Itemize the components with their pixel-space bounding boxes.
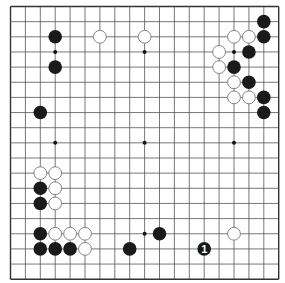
black-stone[interactable] bbox=[227, 60, 241, 74]
star-point bbox=[53, 141, 57, 145]
star-point bbox=[53, 50, 57, 54]
black-stone[interactable] bbox=[34, 197, 48, 211]
white-stone[interactable] bbox=[64, 227, 77, 240]
white-stone[interactable] bbox=[79, 243, 92, 256]
white-stone[interactable] bbox=[138, 30, 151, 43]
white-stone[interactable] bbox=[243, 30, 256, 43]
black-stone[interactable] bbox=[34, 106, 48, 120]
black-stone[interactable] bbox=[48, 242, 62, 256]
black-stone[interactable] bbox=[153, 227, 167, 241]
white-stone[interactable] bbox=[228, 91, 241, 104]
black-stone[interactable] bbox=[48, 30, 62, 44]
move-number-label: 1 bbox=[201, 243, 207, 255]
numbered-stone[interactable]: 1 bbox=[197, 242, 211, 256]
black-stone[interactable] bbox=[242, 45, 256, 59]
white-stone[interactable] bbox=[228, 76, 241, 89]
white-stone[interactable] bbox=[49, 197, 62, 210]
black-stone[interactable] bbox=[34, 182, 48, 196]
go-board[interactable]: 1 bbox=[0, 0, 285, 283]
black-stone[interactable] bbox=[257, 30, 271, 44]
black-stone[interactable] bbox=[48, 60, 62, 74]
white-stone[interactable] bbox=[49, 182, 62, 195]
white-stone[interactable] bbox=[49, 227, 62, 240]
white-stone[interactable] bbox=[243, 91, 256, 104]
white-stone[interactable] bbox=[49, 167, 62, 180]
black-stone[interactable] bbox=[34, 227, 48, 241]
white-stone[interactable] bbox=[34, 167, 47, 180]
star-point bbox=[232, 141, 236, 145]
black-stone[interactable] bbox=[242, 75, 256, 89]
star-point bbox=[232, 50, 236, 54]
black-stone[interactable] bbox=[257, 15, 271, 29]
black-stone[interactable] bbox=[257, 106, 271, 120]
white-stone[interactable] bbox=[213, 46, 226, 59]
black-stone[interactable] bbox=[34, 242, 48, 256]
star-point bbox=[143, 50, 147, 54]
black-stone[interactable] bbox=[63, 242, 77, 256]
white-stone[interactable] bbox=[228, 30, 241, 43]
white-stone[interactable] bbox=[79, 227, 92, 240]
black-stone[interactable] bbox=[257, 91, 271, 105]
white-stone[interactable] bbox=[94, 30, 107, 43]
star-point bbox=[143, 232, 147, 236]
white-stone[interactable] bbox=[213, 61, 226, 74]
star-point bbox=[143, 141, 147, 145]
white-stone[interactable] bbox=[228, 227, 241, 240]
black-stone[interactable] bbox=[123, 242, 137, 256]
